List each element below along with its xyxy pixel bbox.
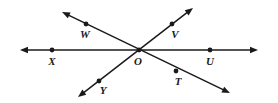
point-label-t: T [175,76,182,87]
point-label-v: V [171,29,178,40]
line-WT-segment [67,15,224,91]
lines-group [20,8,258,97]
point-dot-v [170,22,175,27]
geometry-canvas [0,0,278,103]
point-dot-t [174,69,179,74]
point-label-u: U [206,56,214,67]
point-dot-x [50,48,55,53]
arrowhead-icon [250,47,258,53]
arrowhead-icon [20,47,28,53]
point-label-x: X [48,56,55,67]
point-label-w: W [80,29,90,40]
geometry-figure: WVXOUTY [0,0,278,103]
point-dot-w [84,22,89,27]
arrowhead-icon [62,12,71,18]
point-label-o: O [134,56,142,67]
arrowhead-icon [221,87,230,93]
dots-group [50,22,213,84]
point-dot-o [137,48,142,53]
point-dot-u [208,48,213,53]
point-label-y: Y [100,85,107,96]
